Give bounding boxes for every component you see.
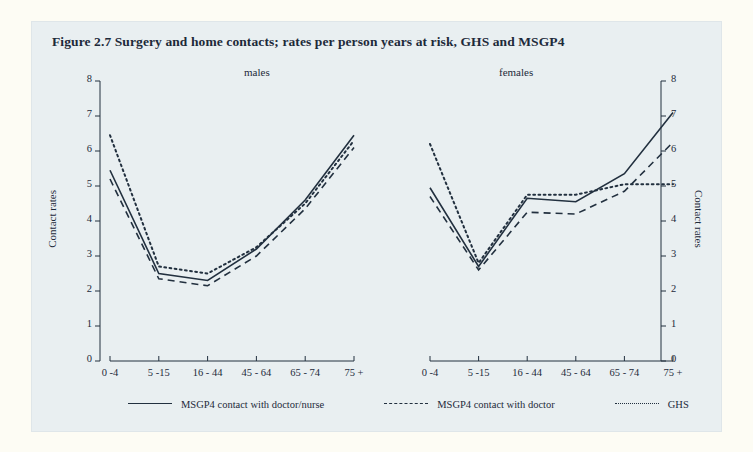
x-tick-label: 65 - 74 bbox=[283, 367, 327, 378]
legend-item-solid: MSGP4 contact with doctor/nurse bbox=[128, 399, 324, 410]
y-tick-label: 4 bbox=[78, 213, 92, 224]
chart-legend: MSGP4 contact with doctor/nurse MSGP4 co… bbox=[128, 392, 648, 416]
x-tick-label: 16 - 44 bbox=[186, 367, 230, 378]
legend-label-solid: MSGP4 contact with doctor/nurse bbox=[181, 399, 324, 410]
y-tick-label: 1 bbox=[671, 318, 676, 329]
series-line-solid bbox=[110, 135, 354, 280]
legend-label-dashed: MSGP4 contact with doctor bbox=[437, 399, 555, 410]
y-tick-label: 5 bbox=[671, 178, 676, 189]
legend-label-dotted: GHS bbox=[668, 399, 689, 410]
y-tick-label: 4 bbox=[671, 213, 676, 224]
y-tick-label: 6 bbox=[78, 143, 92, 154]
y-tick-label: 7 bbox=[78, 108, 92, 119]
x-tick-label: 5 -15 bbox=[457, 367, 501, 378]
x-tick-label: 0 -4 bbox=[408, 367, 452, 378]
axes-layer bbox=[95, 81, 673, 361]
legend-item-dashed: MSGP4 contact with doctor bbox=[384, 399, 555, 410]
x-tick-label: 45 - 64 bbox=[554, 367, 598, 378]
x-tick-label: 16 - 44 bbox=[505, 367, 549, 378]
series-line-dotted bbox=[110, 135, 354, 273]
series-line-solid bbox=[430, 113, 673, 267]
series-line-dotted bbox=[430, 144, 673, 263]
series-line-dashed bbox=[430, 142, 673, 270]
y-tick-label: 8 bbox=[671, 73, 676, 84]
y-tick-label: 6 bbox=[671, 143, 676, 154]
y-tick-label: 0 bbox=[78, 353, 92, 364]
legend-dashed-line-icon bbox=[384, 399, 428, 409]
y-tick-label: 5 bbox=[78, 178, 92, 189]
legend-item-dotted: GHS bbox=[615, 399, 689, 410]
y-tick-label: 3 bbox=[78, 248, 92, 259]
chart-panel: Figure 2.7 Surgery and home contacts; ra… bbox=[32, 22, 721, 431]
figure-page: Figure 2.7 Surgery and home contacts; ra… bbox=[0, 0, 753, 452]
legend-dotted-line-icon bbox=[615, 399, 659, 409]
y-tick-label: 2 bbox=[671, 283, 676, 294]
x-tick-label: 75 + bbox=[332, 367, 376, 378]
y-tick-label: 0 bbox=[671, 353, 676, 364]
legend-solid-line-icon bbox=[128, 399, 172, 409]
y-tick-label: 2 bbox=[78, 283, 92, 294]
x-tick-label: 0 -4 bbox=[88, 367, 132, 378]
y-tick-label: 1 bbox=[78, 318, 92, 329]
y-tick-label: 3 bbox=[671, 248, 676, 259]
x-tick-label: 65 - 74 bbox=[602, 367, 646, 378]
x-tick-label: 45 - 64 bbox=[234, 367, 278, 378]
y-tick-label: 7 bbox=[671, 108, 676, 119]
x-tick-label: 75 + bbox=[651, 367, 695, 378]
y-tick-label: 8 bbox=[78, 73, 92, 84]
series-layer bbox=[110, 113, 673, 286]
x-tick-label: 5 -15 bbox=[137, 367, 181, 378]
plot-area: 0123456780123456780 -45 -1516 - 4445 - 6… bbox=[32, 22, 721, 431]
